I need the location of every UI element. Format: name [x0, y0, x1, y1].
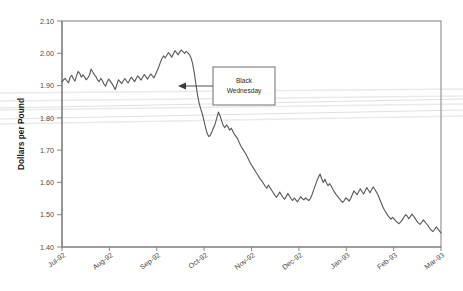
- x-tick-label: Mar-93: [423, 250, 447, 271]
- y-tick-label: 1.70: [40, 146, 54, 155]
- annotation-box: [213, 67, 275, 105]
- x-tick-label: Dec-92: [280, 250, 304, 271]
- y-tick-label: 1.50: [40, 210, 54, 219]
- x-tick-label: Sep-92: [138, 250, 162, 271]
- line-chart: 2.10 2.00 1.90 1.80 1.70 1.60 1.50 1.40 …: [0, 0, 463, 291]
- x-tick-label: Feb-93: [375, 250, 399, 271]
- y-axis-title: Dollars per Pound: [16, 98, 26, 170]
- chart-container: 2.10 2.00 1.90 1.80 1.70 1.60 1.50 1.40 …: [0, 0, 463, 291]
- annotation-arrow-head: [178, 83, 186, 90]
- x-tick-label: Jul-92: [46, 250, 67, 269]
- x-tick-label: Nov-92: [233, 250, 257, 271]
- plot-area-border: [62, 21, 441, 247]
- x-tick-label: Jan-93: [329, 250, 352, 270]
- y-tick-label: 2.10: [40, 17, 54, 26]
- y-tick-label: 1.90: [40, 81, 54, 90]
- y-tick-label: 1.60: [40, 178, 54, 187]
- y-tick-label: 2.00: [40, 49, 54, 58]
- annotation-label-line1: Black: [236, 77, 253, 84]
- annotation-label-line2: Wednesday: [227, 87, 262, 95]
- y-axis-ticks: [57, 21, 62, 247]
- x-tick-label: Aug-92: [91, 250, 115, 271]
- y-tick-label: 1.40: [40, 243, 54, 252]
- y-tick-label: 1.80: [40, 114, 54, 123]
- x-axis-ticks: [62, 247, 441, 251]
- x-tick-label: Oct-92: [187, 250, 210, 270]
